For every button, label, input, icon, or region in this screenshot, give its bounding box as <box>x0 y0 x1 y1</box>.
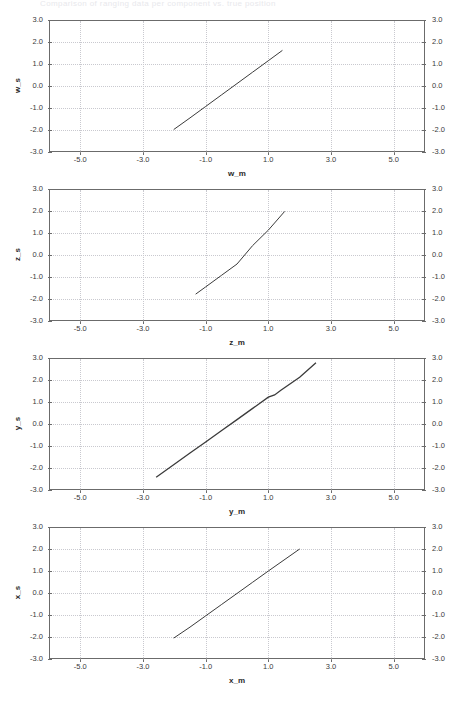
data-series-layer <box>0 0 463 712</box>
plot-page: Comparison of ranging data per component… <box>0 0 463 712</box>
series-line <box>174 549 300 638</box>
